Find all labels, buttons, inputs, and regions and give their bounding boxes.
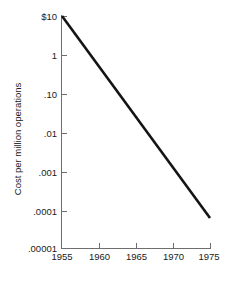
data-series-line	[62, 16, 210, 218]
x-tick-label: 1955	[51, 251, 72, 262]
x-tick-label: 1970	[163, 251, 184, 262]
x-axis-tick-labels: 1955 1960 1965 1970 1975	[51, 251, 219, 262]
chart-container: Cost per million operations $10 1 .10 .0…	[0, 0, 230, 283]
y-tick-label: 1	[52, 50, 57, 61]
y-axis-title: Cost per million operations	[12, 83, 23, 196]
y-tick-label: .0001	[33, 206, 57, 217]
y-axis-tick-labels: $10 1 .10 .01 .001 .0001 .00001	[28, 11, 57, 254]
y-tick-label: .001	[39, 167, 58, 178]
x-tick-label: 1975	[198, 251, 219, 262]
x-tick-label: 1965	[126, 251, 147, 262]
x-tick-label: 1960	[89, 251, 110, 262]
cost-per-million-operations-line-chart: Cost per million operations $10 1 .10 .0…	[0, 0, 230, 283]
y-tick-label: .01	[44, 128, 57, 139]
y-axis-ticks	[62, 17, 68, 212]
y-tick-label: .10	[44, 89, 57, 100]
x-axis-ticks	[100, 243, 211, 249]
y-tick-label: $10	[41, 11, 57, 22]
